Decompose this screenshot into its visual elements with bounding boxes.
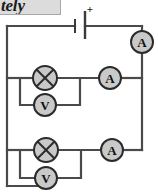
voltmeter-bottom-label: V: [41, 171, 51, 186]
voltmeter-bottom: V: [35, 167, 57, 189]
ammeter-bottom-label: A: [107, 143, 117, 158]
wire-bottom-voltmeter-loop-right: [57, 150, 81, 178]
wire-top-voltmeter-loop-left: [20, 78, 34, 105]
circuit-diagram-page: tely: [0, 0, 158, 193]
ammeter-top: A: [99, 67, 121, 89]
voltmeter-top: V: [34, 94, 56, 116]
battery-positive-terminal-label: +: [87, 3, 93, 15]
wire-top-voltmeter-loop-right: [56, 78, 80, 105]
wire-bottom-voltmeter-loop-left: [20, 150, 35, 178]
lamp-top: [33, 66, 57, 90]
ammeter-top-label: A: [105, 71, 115, 86]
ammeter-main-label: A: [137, 35, 147, 50]
lamp-bottom: [34, 138, 58, 162]
battery-symbol: +: [75, 3, 93, 39]
ammeter-main: A: [131, 31, 153, 53]
voltmeter-top-label: V: [40, 98, 50, 113]
ammeter-bottom: A: [101, 139, 123, 161]
circuit-wires: [7, 26, 142, 186]
circuit-schematic: + A A V A: [0, 0, 158, 193]
